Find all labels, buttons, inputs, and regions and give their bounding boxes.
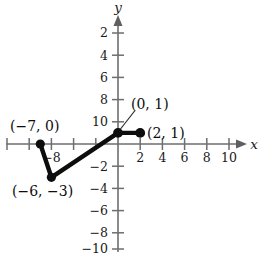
point-label-2-1: (2, 1) [147,125,185,141]
x-tick-label-2: 2 [136,150,144,165]
x-tick-label-4: 4 [158,150,166,165]
point-label-0-1: (0, 1) [131,96,169,112]
y-tick-label-8: 8 [100,92,108,107]
x-axis-name: x [250,136,258,152]
y-tick-label-m2: −2 [90,159,108,174]
y-tick-label-2: 2 [100,25,108,40]
vertex-point-2-1 [135,128,145,138]
graph-canvas: 10 8 6 4 2 −2 −4 −6 −8 −10 2 4 6 8 10 −8… [0,0,266,259]
y-tick-label-10: 10 [92,114,108,129]
y-tick-label-4: 4 [100,48,108,63]
y-tick-label-m6: −6 [90,203,108,218]
y-tick-label-m10: −10 [82,241,108,256]
vertex-point-neg6-neg3 [47,173,56,182]
point-label-neg7-0: (−7, 0) [10,118,59,134]
vertex-point-neg7-0 [36,139,45,148]
x-tick-label-6: 6 [181,150,189,165]
x-tick-label-8: 8 [203,150,211,165]
point-label-neg6-neg3: (−6, −3) [12,183,73,199]
y-axis-name: y [113,0,122,15]
y-tick-label-m8: −8 [90,225,108,240]
y-tick-label-6: 6 [100,70,108,85]
y-tick-label-m4: −4 [90,181,108,196]
x-tick-label-10: 10 [221,150,237,165]
vertex-point-0-1 [113,128,123,138]
